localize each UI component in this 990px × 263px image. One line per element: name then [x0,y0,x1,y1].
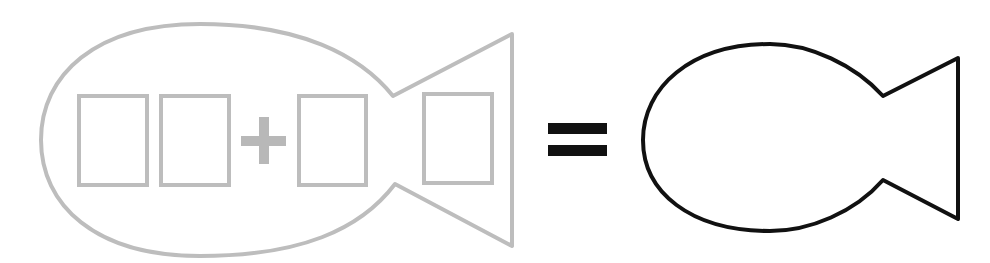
diagram-canvas [0,0,990,263]
answer-box-1[interactable] [79,96,147,185]
answer-box-3[interactable] [299,96,366,185]
right-fish-outline [643,44,958,231]
answer-box-2[interactable] [161,96,229,185]
answer-box-4[interactable] [424,94,492,183]
plus-icon [241,117,286,164]
equals-icon [548,123,607,156]
fish-equation-diagram [0,0,990,263]
